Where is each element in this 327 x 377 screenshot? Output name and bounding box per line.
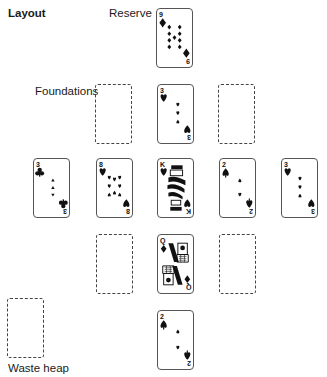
card-rank: 3	[311, 208, 315, 215]
card-rank: 3	[63, 208, 67, 215]
tableau-card[interactable]: 3 3	[33, 158, 70, 218]
tableau-card[interactable]: 8 8	[96, 158, 133, 218]
card-rank: 3	[187, 134, 191, 141]
stock-card[interactable]: 2 2	[157, 310, 194, 370]
empty-slot[interactable]	[96, 234, 133, 294]
foundations-label: Foundations	[35, 85, 98, 97]
queen-card[interactable]: Q Q	[157, 234, 194, 294]
waste-heap-label: Waste heap	[8, 362, 69, 374]
card-rank: Q	[186, 284, 191, 291]
waste-heap-slot[interactable]	[7, 298, 44, 358]
card-rank: 2	[249, 208, 253, 215]
tableau-card-king[interactable]: K K	[157, 158, 194, 218]
tableau-card[interactable]: 3 3	[281, 158, 318, 218]
card-rank: 8	[126, 208, 130, 215]
card-rank: 2	[187, 360, 191, 367]
reserve-label: Reserve	[109, 7, 152, 19]
foundation-card[interactable]: 3 3	[157, 84, 194, 144]
foundation-slot-empty[interactable]	[95, 84, 132, 144]
card-rank: K	[186, 208, 191, 215]
card-rank: 9	[186, 58, 190, 65]
layout-title: Layout	[8, 7, 46, 19]
tableau-card[interactable]: 2 2	[219, 158, 256, 218]
empty-slot[interactable]	[219, 234, 256, 294]
foundation-slot-empty[interactable]	[218, 84, 255, 144]
reserve-card[interactable]: 9 9	[156, 8, 193, 68]
